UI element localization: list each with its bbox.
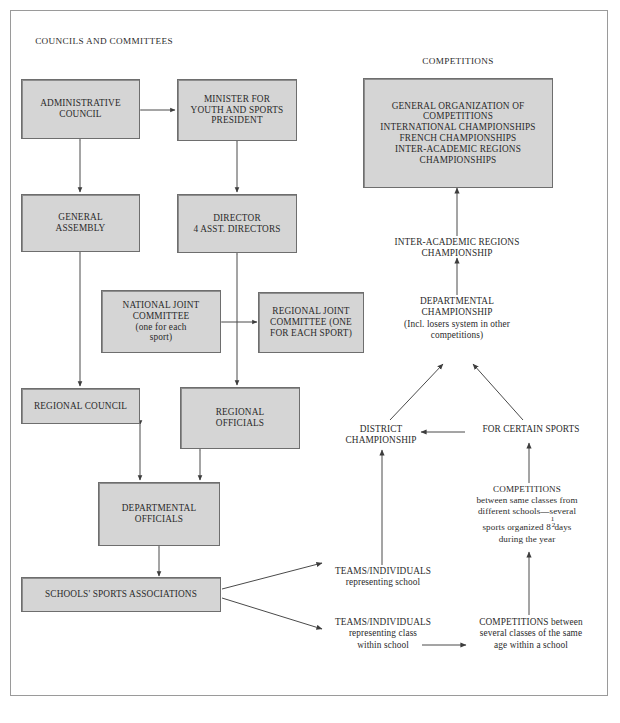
box-regional-joint-committee[interactable]: REGIONAL JOINT COMMITTEE (ONE FOR EACH S… [258,292,364,353]
general-organization-line-3: INTERNATIONAL CHAMPIONSHIPS [367,122,549,133]
heading-councils-line-1: COUNCILS AND COMMITTEES [24,36,184,48]
label-for-certain-sports: FOR CERTAIN SPORTS [468,424,594,435]
teams-school-line-2: representing school [320,577,446,588]
district-championship-line-1: DISTRICT [331,424,431,435]
competitions-same-age-line-2: several classes of the same [458,628,604,639]
departmental-championship-line-4: competitions) [371,330,543,341]
national-joint-committee-line-4: sport) [105,332,217,343]
label-competitions-between-classes-different-schools: COMPETITIONS between same classes from d… [442,484,612,545]
general-organization-line-2: COMPETITIONS [367,111,549,122]
sports-organized-text: sports organized [482,523,546,533]
days-unit: days [554,523,571,533]
teams-class-line-3: within school [320,640,446,651]
teams-school-line-1: TEAMS/INDIVIDUALS [320,566,446,577]
box-minister-youth-sports-president[interactable]: MINISTER FOR YOUTH AND SPORTS PRESIDENT [177,79,297,141]
competitions-same-age-line-1: COMPETITIONS between [458,617,604,628]
minister-line-1: MINISTER FOR [181,94,293,105]
general-organization-line-6: CHAMPIONSHIPS [367,155,549,166]
heading-councils-and-committees: COUNCILS AND COMMITTEES [24,36,184,48]
box-general-assembly[interactable]: GENERAL ASSEMBLY [21,194,140,252]
box-director-4-asst-directors[interactable]: DIRECTOR 4 ASST. DIRECTORS [177,194,297,253]
box-schools-sports-associations[interactable]: SCHOOLS' SPORTS ASSOCIATIONS [21,577,221,612]
director-line-2: 4 ASST. DIRECTORS [181,224,293,235]
general-organization-line-4: FRENCH CHAMPIONSHIPS [367,133,549,144]
regional-joint-committee-line-3: FOR EACH SPORT) [262,328,360,339]
box-administrative-council[interactable]: ADMINISTRATIVE COUNCIL [21,79,140,139]
box-regional-council[interactable]: REGIONAL COUNCIL [21,388,140,424]
regional-joint-committee-line-2: COMMITTEE (ONE [262,317,360,328]
box-departmental-officials[interactable]: DEPARTMENTAL OFFICIALS [98,482,220,546]
director-line-1: DIRECTOR [181,213,293,224]
administrative-council-line-1: ADMINISTRATIVE [25,98,136,109]
inter-academic-line-1: INTER-ACADEMIC REGIONS [377,237,537,248]
label-district-championship: DISTRICT CHAMPIONSHIP [331,424,431,447]
teams-class-line-2: representing class [320,628,446,639]
fraction-denominator: 2 [552,522,556,529]
label-teams-individuals-representing-school: TEAMS/INDIVIDUALS representing school [320,566,446,589]
regional-joint-committee-line-1: REGIONAL JOINT [262,306,360,317]
box-general-organization-of-competitions[interactable]: GENERAL ORGANIZATION OF COMPETITIONS INT… [363,78,553,188]
label-teams-individuals-representing-class: TEAMS/INDIVIDUALS representing class wit… [320,617,446,651]
competitions-diff-schools-line-4: sports organized 812days [442,517,612,533]
competitions-diff-schools-line-2: between same classes from [442,495,612,506]
departmental-officials-line-1: DEPARTMENTAL [102,503,216,514]
heading-competitions-line-1: COMPETITIONS [388,56,528,68]
competitions-diff-schools-line-1: COMPETITIONS [442,484,612,495]
box-national-joint-committee[interactable]: NATIONAL JOINT COMMITTEE (one for each s… [101,290,221,353]
diagram-canvas: COUNCILS AND COMMITTEES COMPETITIONS ADM… [0,0,620,723]
district-championship-line-2: CHAMPIONSHIP [331,435,431,446]
departmental-officials-line-2: OFFICIALS [102,514,216,525]
regional-officials-line-2: OFFICIALS [184,418,296,429]
departmental-championship-line-2: CHAMPIONSHIP [371,307,543,318]
national-joint-committee-line-1: NATIONAL JOINT [105,300,217,311]
competitions-diff-schools-line-5: during the year [442,534,612,545]
label-competitions-same-age-within-school: COMPETITIONS between several classes of … [458,617,604,651]
general-organization-line-5: INTER-ACADEMIC REGIONS [367,144,549,155]
general-assembly-line-2: ASSEMBLY [25,223,136,234]
competitions-same-age-line-3: age within a school [458,640,604,651]
minister-line-2: YOUTH AND SPORTS [181,105,293,116]
regional-council-line-1: REGIONAL COUNCIL [25,401,136,412]
box-regional-officials[interactable]: REGIONAL OFFICIALS [180,387,300,449]
label-inter-academic-regions-championship: INTER-ACADEMIC REGIONS CHAMPIONSHIP [377,237,537,260]
national-joint-committee-line-2: COMMITTEE [105,311,217,322]
general-assembly-line-1: GENERAL [25,212,136,223]
national-joint-committee-line-3: (one for each [105,322,217,333]
heading-competitions: COMPETITIONS [388,56,528,68]
departmental-championship-line-1: DEPARTMENTAL [371,296,543,307]
label-departmental-championship: DEPARTMENTAL CHAMPIONSHIP (Incl. losers … [371,296,543,341]
departmental-championship-line-3: (Incl. losers system in other [371,319,543,330]
teams-class-line-1: TEAMS/INDIVIDUALS [320,617,446,628]
for-certain-sports-line-1: FOR CERTAIN SPORTS [468,424,594,435]
inter-academic-line-2: CHAMPIONSHIP [377,248,537,259]
general-organization-line-1: GENERAL ORGANIZATION OF [367,101,549,112]
regional-officials-line-1: REGIONAL [184,407,296,418]
days-fraction: 12 [551,516,555,532]
minister-line-3: PRESIDENT [181,115,293,126]
administrative-council-line-2: COUNCIL [25,109,136,120]
schools-sports-associations-line-1: SCHOOLS' SPORTS ASSOCIATIONS [25,589,217,600]
competitions-diff-schools-line-3: different schools—several [442,506,612,517]
